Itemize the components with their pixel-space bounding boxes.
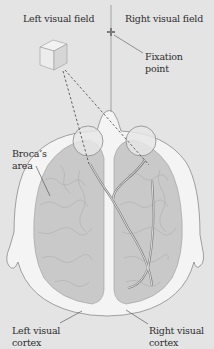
cube-object	[40, 40, 67, 70]
right-visual-cortex-label-line2: cortex	[149, 337, 178, 348]
left-eye	[73, 126, 103, 156]
fixation-pointer-line	[114, 35, 143, 53]
right-visual-field-label: Right visual field	[125, 13, 203, 24]
brocas-area-label-line2: area	[12, 160, 33, 171]
visual-pathway-diagram: Left visual field Right visual field Fix…	[0, 0, 214, 349]
fixation-cross	[107, 28, 115, 36]
left-visual-cortex-label-line1: Left visual	[12, 325, 60, 336]
brocas-area-label-line1: Broca’s	[12, 148, 47, 159]
left-visual-field-label: Left visual field	[23, 13, 94, 24]
right-visual-cortex-label-line1: Right visual	[149, 325, 204, 336]
right-eye	[126, 126, 156, 156]
left-visual-cortex-label-line2: cortex	[12, 337, 41, 348]
fixation-point-label-line1: Fixation	[145, 51, 183, 62]
fixation-point-label-line2: point	[145, 63, 169, 74]
